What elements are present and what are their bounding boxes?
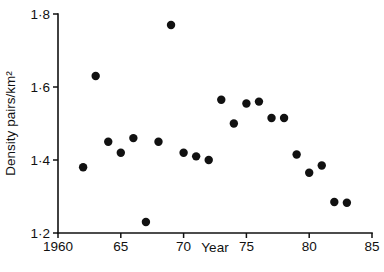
data-point [230,119,238,127]
data-point [330,198,338,206]
data-point [280,114,288,122]
x-axis-title: Year [201,240,229,255]
x-tick-label: 1960 [43,239,73,254]
data-point [305,169,313,177]
data-point [91,72,99,80]
data-point [343,199,351,207]
chart-figure: 1·21·41·61·8 19606570758085 Year Density… [0,0,384,272]
data-point [104,138,112,146]
x-tick-label: 70 [176,239,191,254]
data-point [318,161,326,169]
data-point [179,149,187,157]
data-point [129,134,137,142]
data-point [142,218,150,226]
x-tick-label: 85 [364,239,379,254]
x-tick-label: 80 [302,239,317,254]
y-axis-title: Density pairs/km² [3,71,18,176]
y-tick-label: 1·6 [30,80,50,95]
axes-group [58,14,372,233]
data-point [192,152,200,160]
data-point [255,97,263,105]
y-axis-ticks: 1·21·41·61·8 [30,7,58,241]
data-point [217,96,225,104]
data-point [167,21,175,29]
scatter-plot-svg: 1·21·41·61·8 19606570758085 Year Density… [0,0,384,272]
data-point [205,156,213,164]
data-point [117,149,125,157]
data-point [79,163,87,171]
x-tick-label: 75 [239,239,254,254]
data-point [242,99,250,107]
data-point [154,138,162,146]
y-tick-label: 1·8 [30,7,50,22]
data-point [292,150,300,158]
data-points-group [79,21,351,227]
y-tick-label: 1·4 [30,153,50,168]
data-point [267,114,275,122]
x-tick-label: 65 [113,239,128,254]
